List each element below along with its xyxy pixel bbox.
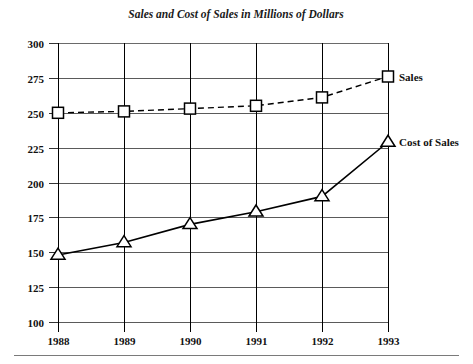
x-tick-label-1991: 1991 — [246, 335, 268, 347]
series-markers — [51, 71, 395, 259]
chart-container: Sales and Cost of Sales in Millions of D… — [0, 0, 473, 364]
y-tick-label-100: 100 — [28, 317, 45, 329]
x-tick-label-1993: 1993 — [378, 335, 401, 347]
marker-cost-of-sales-1993 — [381, 135, 395, 146]
x-axis-tick-labels: 198819891990199119921993 — [48, 335, 401, 347]
chart-title: Sales and Cost of Sales in Millions of D… — [128, 8, 344, 21]
y-tick-label-150: 150 — [28, 247, 45, 259]
series-lines — [58, 77, 388, 256]
sales-and-cost-of-sales-line-chart: Sales and Cost of Sales in Millions of D… — [0, 0, 473, 364]
y-tick-label-175: 175 — [28, 212, 45, 224]
marker-sales-1989 — [119, 106, 130, 117]
series-line-cost-of-sales — [58, 142, 388, 255]
y-tick-label-200: 200 — [28, 178, 45, 190]
y-tick-label-300: 300 — [28, 38, 45, 50]
vertical-gridlines — [59, 43, 389, 332]
marker-cost-of-sales-1992 — [315, 190, 329, 201]
x-tick-label-1990: 1990 — [180, 335, 203, 347]
marker-sales-1992 — [317, 92, 328, 103]
x-tick-label-1989: 1989 — [114, 335, 137, 347]
marker-sales-1990 — [185, 103, 196, 114]
series-line-sales — [58, 77, 388, 113]
x-tick-label-1992: 1992 — [312, 335, 335, 347]
y-axis-tick-labels: 300275250225200175150125100 — [28, 38, 45, 329]
y-tick-label-250: 250 — [28, 108, 45, 120]
series-label-sales: Sales — [399, 71, 424, 83]
series-end-labels: SalesCost of Sales — [399, 71, 460, 149]
y-tick-label-275: 275 — [28, 73, 45, 85]
y-tick-label-225: 225 — [28, 143, 45, 155]
marker-sales-1993 — [383, 71, 394, 82]
marker-sales-1988 — [53, 107, 64, 118]
x-tick-label-1988: 1988 — [48, 335, 71, 347]
y-tick-label-125: 125 — [28, 282, 45, 294]
series-label-cost-of-sales: Cost of Sales — [399, 136, 460, 148]
marker-sales-1991 — [251, 100, 262, 111]
